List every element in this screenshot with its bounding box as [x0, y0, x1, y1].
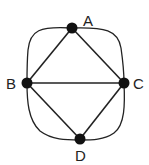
edge-b-d [27, 83, 80, 139]
node-d [75, 134, 86, 145]
edge-a-b [27, 28, 72, 83]
node-label-c: C [133, 75, 144, 92]
node-c [119, 78, 130, 89]
node-b [22, 78, 33, 89]
node-label-b: B [6, 75, 16, 92]
node-label-a: A [83, 12, 93, 29]
node-a [67, 23, 78, 34]
graph-diagram: A B C D [0, 0, 149, 165]
node-label-d: D [75, 147, 86, 164]
